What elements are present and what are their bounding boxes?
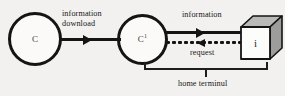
cube-icon[interactable]: i <box>239 15 283 61</box>
cube-label: i <box>254 37 257 49</box>
bracket-label-home-terminal: home terminul <box>178 79 227 89</box>
node-c1-superscript: 1 <box>144 33 147 39</box>
node-c1[interactable]: C1 <box>117 14 168 65</box>
edge-information-line <box>165 31 250 34</box>
edge-label-request: request <box>190 48 214 58</box>
bracket-tick-center <box>205 69 207 77</box>
node-c1-label: C1 <box>138 35 147 44</box>
node-c[interactable]: C <box>8 12 62 66</box>
bracket-tick-right <box>266 62 268 70</box>
edge-label-information-download: information download <box>62 9 102 29</box>
arrow-left-icon-request <box>197 39 205 47</box>
arrow-right-icon-download <box>83 35 92 45</box>
edge-label-information: information <box>182 10 222 20</box>
edge-request-dotted-line <box>165 41 249 44</box>
diagram-canvas: C C1 information download information re… <box>0 0 285 96</box>
arrow-right-icon-information <box>196 28 205 38</box>
node-c-label: C <box>32 35 38 44</box>
edge-label-information-download-line2: download <box>62 19 102 29</box>
edge-label-information-download-line1: information <box>62 9 102 19</box>
bracket-tick-left <box>144 62 146 70</box>
